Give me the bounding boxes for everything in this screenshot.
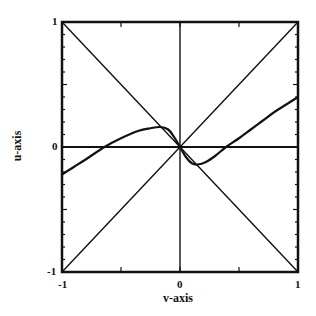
x-axis-title: v-axis [163, 292, 193, 304]
y-axis-title: u-axis [11, 131, 23, 162]
x-tick-label-mid: 0 [177, 279, 183, 290]
y-tick-label-top: 1 [52, 16, 58, 27]
y-tick-label-mid: 0 [52, 141, 58, 152]
x-tick-label-right: 1 [295, 279, 301, 290]
y-tick-label-bottom: -1 [47, 266, 56, 277]
x-tick-label-left: -1 [58, 279, 67, 290]
